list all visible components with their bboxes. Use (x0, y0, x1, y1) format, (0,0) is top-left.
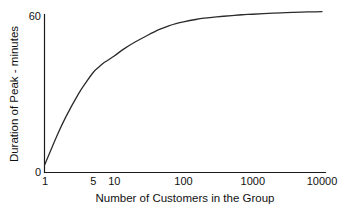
y-tick-label-60: 60 (29, 10, 41, 22)
chart-plot-area: 60 0 1 5 10 100 1000 10000 Number of Cus… (0, 0, 343, 210)
x-axis-title: Number of Customers in the Group (96, 192, 275, 204)
x-tick-label-1000: 1000 (241, 175, 265, 187)
x-tick-label-1: 1 (42, 175, 48, 187)
x-tick-label-100: 100 (174, 175, 192, 187)
data-curve (45, 12, 322, 165)
x-tick-label-10: 10 (108, 175, 120, 187)
y-axis-title: Duration of Peak - minutes (8, 26, 20, 162)
x-tick-label-5: 5 (90, 175, 96, 187)
y-tick-label-0: 0 (35, 166, 41, 178)
chart-figure: 60 0 1 5 10 100 1000 10000 Number of Cus… (0, 0, 343, 210)
x-tick-label-10000: 10000 (307, 175, 338, 187)
